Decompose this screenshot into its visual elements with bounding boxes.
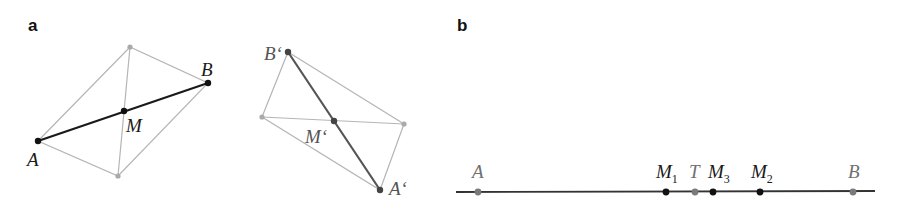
panel-label-b: b bbox=[457, 16, 467, 35]
point-b bbox=[205, 80, 211, 86]
vertex-image-p bbox=[259, 114, 264, 119]
point-m-prime bbox=[331, 118, 337, 124]
point-line-a bbox=[475, 189, 482, 196]
label-b: B bbox=[201, 59, 213, 80]
point-m1 bbox=[663, 189, 670, 196]
label-m3: M3 bbox=[707, 161, 730, 186]
point-a bbox=[35, 138, 41, 144]
point-t bbox=[692, 189, 699, 196]
label-m-prime: M‘ bbox=[304, 126, 327, 147]
panel-label-a: a bbox=[28, 16, 38, 35]
label-m: M bbox=[125, 115, 143, 136]
point-m2 bbox=[757, 189, 764, 196]
point-line-b bbox=[850, 189, 857, 196]
parallelogram-original: A B M bbox=[25, 44, 213, 178]
label-a: A bbox=[25, 149, 39, 170]
vertex-p bbox=[127, 44, 132, 49]
number-line: A M1 T M3 M2 B bbox=[456, 161, 875, 195]
label-line-b: B bbox=[848, 161, 860, 182]
label-m1: M1 bbox=[655, 161, 678, 186]
point-b-prime bbox=[285, 49, 291, 55]
label-line-a: A bbox=[470, 161, 484, 182]
label-a-prime: A‘ bbox=[387, 178, 407, 199]
label-b-prime: B‘ bbox=[264, 43, 282, 64]
point-a-prime bbox=[377, 187, 383, 193]
diagram-canvas: a A B M B‘ A‘ M‘ b A M1 T M bbox=[0, 0, 903, 212]
point-m bbox=[121, 108, 127, 114]
label-m2: M2 bbox=[750, 161, 773, 186]
point-m3 bbox=[710, 189, 717, 196]
vertex-image-q bbox=[401, 121, 406, 126]
parallelogram-image: B‘ A‘ M‘ bbox=[259, 43, 407, 199]
vertex-q bbox=[115, 173, 120, 178]
label-t: T bbox=[689, 161, 701, 182]
